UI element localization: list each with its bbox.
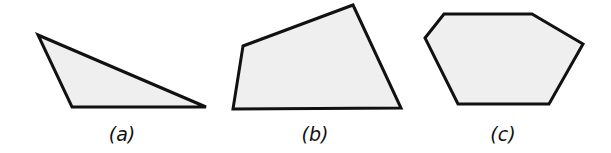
label-b: (b) <box>302 123 329 145</box>
label-a: (a) <box>109 123 135 145</box>
label-c: (c) <box>490 123 515 145</box>
triangle-shape-a <box>38 35 206 107</box>
quadrilateral-shape-b <box>233 5 401 109</box>
hexagon-shape-c <box>425 14 583 104</box>
polygon-figure: (a) (b) (c) <box>0 0 611 153</box>
